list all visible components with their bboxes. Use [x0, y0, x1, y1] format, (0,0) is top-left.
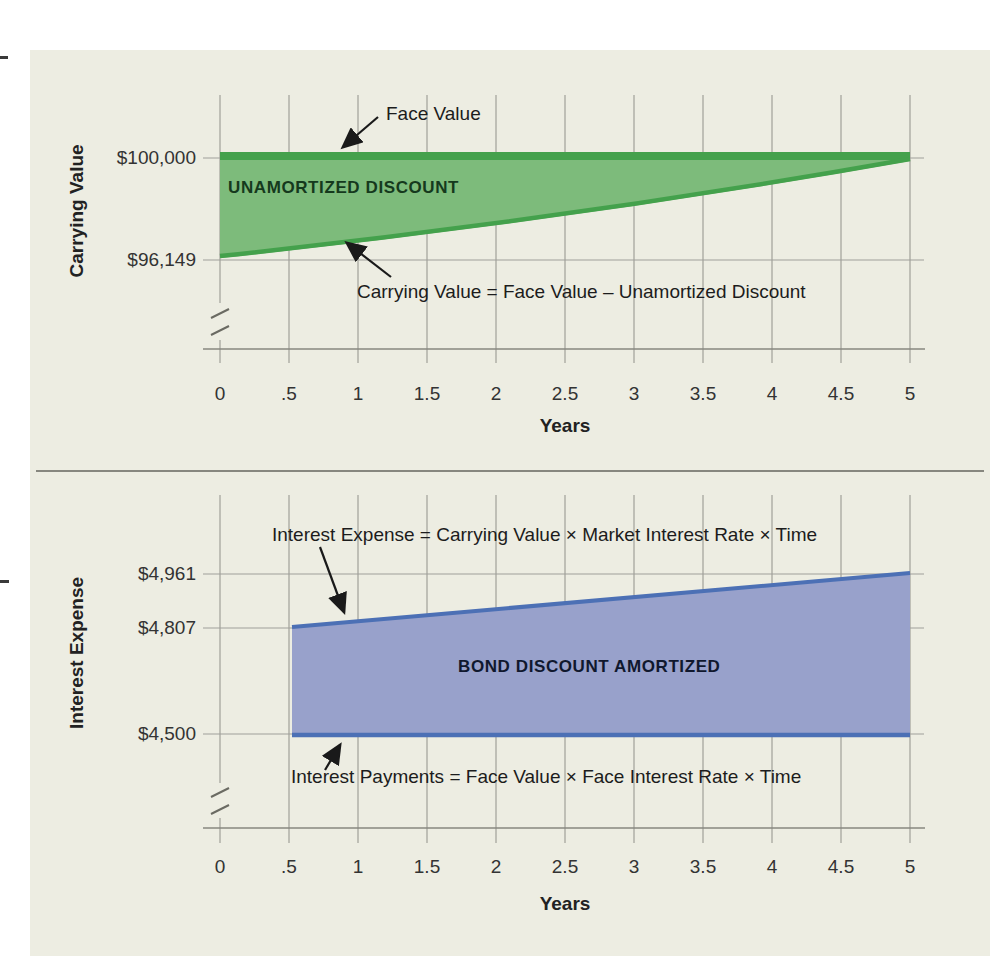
top-x-tick: 0: [195, 383, 245, 405]
bottom-y-tick-4961: $4,961: [46, 563, 196, 585]
bottom-x-tick: 2.5: [540, 856, 590, 878]
bottom-x-tick: 0: [195, 856, 245, 878]
top-x-tick: 3: [609, 383, 659, 405]
bottom-x-tick: 3: [609, 856, 659, 878]
interest-expense-arrow-icon: [320, 547, 344, 612]
top-x-axis-title: Years: [515, 415, 615, 437]
top-x-tick: .5: [264, 383, 314, 405]
charts-canvas: [0, 0, 1005, 962]
face-value-arrow-icon: [343, 117, 378, 147]
top-x-tick: 2.5: [540, 383, 590, 405]
top-x-tick: 1: [333, 383, 383, 405]
top-x-tick: 3.5: [678, 383, 728, 405]
bottom-x-tick: 1: [333, 856, 383, 878]
bottom-x-tick: 5: [885, 856, 935, 878]
bottom-x-tick: 4.5: [816, 856, 866, 878]
face-value-line: [220, 152, 910, 160]
top-x-tick: 2: [471, 383, 521, 405]
figure: Carrying Value $100,000 $96,149 Face Val…: [0, 0, 1005, 962]
interest-expense-annotation: Interest Expense = Carrying Value × Mark…: [272, 524, 817, 546]
interest-payments-annotation: Interest Payments = Face Value × Face In…: [291, 766, 801, 788]
top-x-tick: 4: [747, 383, 797, 405]
top-y-axis-title: Carrying Value: [66, 101, 88, 321]
bottom-x-tick: 1.5: [402, 856, 452, 878]
top-y-tick-96149: $96,149: [46, 249, 196, 271]
top-x-tick: 5: [885, 383, 935, 405]
top-axis-break-icon: [211, 309, 229, 335]
top-y-tick-100000: $100,000: [46, 147, 196, 169]
bond-discount-label: BOND DISCOUNT AMORTIZED: [458, 657, 721, 677]
bottom-x-axis-title: Years: [515, 893, 615, 915]
unamortized-discount-label: UNAMORTIZED DISCOUNT: [228, 178, 459, 198]
bottom-x-tick: 3.5: [678, 856, 728, 878]
bottom-y-tick-4807: $4,807: [46, 617, 196, 639]
bottom-x-tick: 2: [471, 856, 521, 878]
bottom-y-tick-4500: $4,500: [46, 723, 196, 745]
bottom-axis-break-icon: [211, 788, 229, 814]
face-value-annotation: Face Value: [386, 103, 481, 125]
bond-discount-area: [292, 572, 910, 737]
carrying-value-annotation: Carrying Value = Face Value – Unamortize…: [357, 281, 806, 303]
top-x-tick: 4.5: [816, 383, 866, 405]
bottom-x-tick: .5: [264, 856, 314, 878]
top-x-tick: 1.5: [402, 383, 452, 405]
bottom-x-tick: 4: [747, 856, 797, 878]
